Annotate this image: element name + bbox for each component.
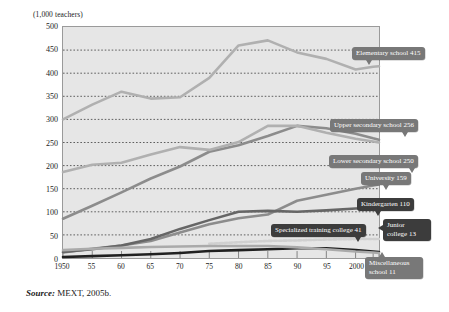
- callout-pointer: [366, 60, 372, 65]
- x-tick-label: 1950: [55, 262, 70, 271]
- x-tick-label: 95: [323, 262, 331, 271]
- miscellaneous-school-label-line1: Miscellaneous: [369, 259, 409, 267]
- y-tick-label: 500: [46, 22, 58, 31]
- y-tick-label: 450: [46, 45, 58, 54]
- y-axis-ticks: 050100150200250300350400450500: [0, 26, 58, 259]
- y-tick-label: 50: [50, 231, 58, 240]
- figure-container: (1,000 teachers) 05010015020025030035040…: [0, 0, 449, 312]
- callout-pointer: [379, 252, 385, 257]
- miscellaneous-school-label-line2: school 11: [369, 268, 396, 276]
- source-label: Source:: [26, 288, 55, 298]
- x-tick-label: 2000: [349, 262, 364, 271]
- y-tick-label: 100: [46, 208, 58, 217]
- x-tick-label: 65: [147, 262, 155, 271]
- x-tick-label: 70: [176, 262, 184, 271]
- source-note: Source: MEXT, 2005b.: [26, 288, 111, 298]
- junior-college-label-line2: college 13: [387, 230, 416, 238]
- x-tick-label: 85: [264, 262, 272, 271]
- y-tick-label: 350: [46, 91, 58, 100]
- y-tick-label: 150: [46, 185, 58, 194]
- x-tick-label: 75: [205, 262, 213, 271]
- callout-pointer: [402, 132, 408, 137]
- series-label-elementary-school: Elementary school 415: [352, 47, 425, 60]
- series-label-kindergarten: Kindergarten 110: [357, 198, 414, 211]
- callout-pointer: [375, 211, 381, 216]
- series-label-junior-college: Junior college 13: [383, 219, 431, 241]
- y-tick-label: 200: [46, 161, 58, 170]
- callout-pointer: [383, 185, 389, 190]
- series-label-miscellaneous-school: Miscellaneous school 11: [365, 257, 423, 279]
- y-tick-label: 400: [46, 68, 58, 77]
- callout-pointer: [355, 237, 361, 242]
- x-tick-label: 60: [117, 262, 125, 271]
- y-axis-title: (1,000 teachers): [33, 10, 83, 19]
- x-tick-label: 90: [294, 262, 302, 271]
- x-tick-label: 55: [88, 262, 96, 271]
- x-axis-ticks: 195055606570758085909520000304 (FY): [62, 262, 380, 276]
- y-tick-label: 300: [46, 115, 58, 124]
- junior-college-label-line1: Junior: [387, 221, 405, 229]
- series-label-lower-secondary-school: Lower secondary school 250: [329, 155, 418, 168]
- source-value: MEXT, 2005b.: [57, 288, 111, 298]
- y-tick-label: 250: [46, 138, 58, 147]
- x-tick-label: 80: [235, 262, 243, 271]
- callout-pointer: [378, 225, 383, 231]
- series-label-specialized-training-college: Specialized training college 41: [271, 224, 366, 237]
- series-label-upper-secondary-school: Upper secondary school 256: [330, 119, 418, 132]
- series-label-university: University 159: [361, 172, 411, 185]
